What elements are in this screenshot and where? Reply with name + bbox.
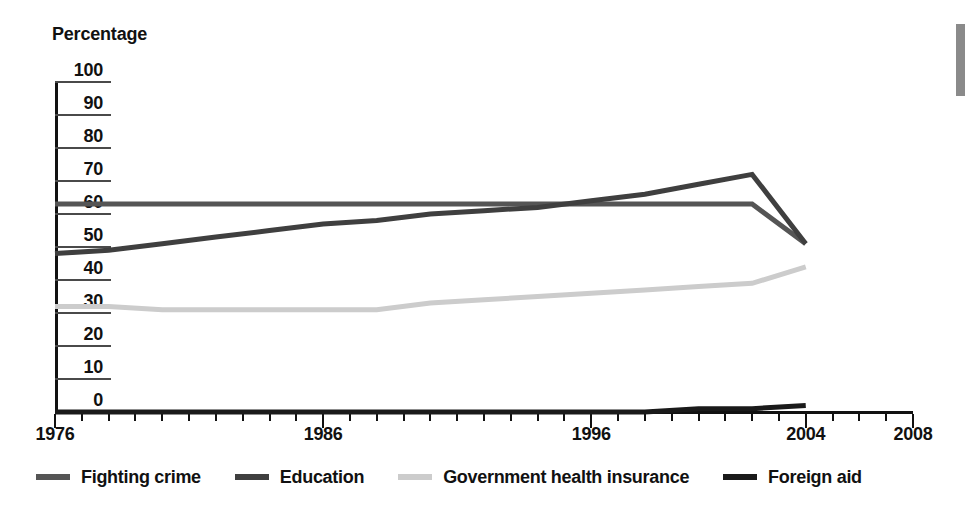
- series-lines-group: [0, 0, 977, 510]
- x-axis-minor-tick: [161, 414, 163, 421]
- y-axis-tick-label: 20: [51, 325, 103, 343]
- x-axis-minor-tick: [832, 414, 834, 421]
- x-axis-minor-tick: [188, 414, 190, 421]
- x-axis-tick-label: 1996: [572, 424, 611, 445]
- x-axis-minor-tick: [269, 414, 271, 421]
- series-line: [55, 204, 806, 244]
- y-axis-tick-label: 70: [51, 160, 103, 178]
- x-axis-minor-tick: [349, 414, 351, 421]
- legend-swatch-icon: [723, 474, 757, 480]
- legend-label: Government health insurance: [443, 467, 689, 488]
- x-axis-minor-tick: [242, 414, 244, 421]
- legend-item[interactable]: Fighting crime: [36, 467, 201, 488]
- y-axis-tick-label: 50: [51, 226, 103, 244]
- x-axis-minor-tick: [510, 414, 512, 421]
- y-axis-tick-label: 80: [51, 127, 103, 145]
- x-axis-tick-label: 2004: [786, 424, 825, 445]
- legend-item[interactable]: Foreign aid: [723, 467, 862, 488]
- legend-swatch-icon: [235, 474, 269, 480]
- chart-canvas: Percentage 1009080706050403020100 197619…: [0, 0, 977, 510]
- x-axis-minor-tick: [778, 414, 780, 421]
- y-axis-tick-label: 100: [51, 61, 103, 79]
- y-axis-tick: [55, 345, 111, 347]
- x-axis-minor-tick: [858, 414, 860, 421]
- y-axis-tick-label: 10: [51, 358, 103, 376]
- chart-legend: Fighting crimeEducationGovernment health…: [36, 462, 936, 492]
- series-line: [55, 174, 806, 253]
- page-edge-marker: [956, 24, 965, 96]
- x-axis-minor-tick: [376, 414, 378, 421]
- x-axis-tick-label: 1986: [304, 424, 343, 445]
- series-line: [55, 267, 806, 310]
- x-axis-minor-tick: [134, 414, 136, 421]
- y-axis-tick-label: 60: [51, 193, 103, 211]
- y-axis-tick: [55, 213, 111, 215]
- legend-swatch-icon: [398, 474, 432, 480]
- y-axis-tick: [55, 246, 111, 248]
- legend-label: Foreign aid: [768, 467, 862, 488]
- legend-swatch-icon: [36, 474, 70, 480]
- x-axis-minor-tick: [108, 414, 110, 421]
- x-axis-minor-tick: [537, 414, 539, 421]
- y-axis-tick-label: 90: [51, 94, 103, 112]
- y-axis-tick: [55, 279, 111, 281]
- x-axis-minor-tick: [724, 414, 726, 421]
- y-axis-tick-label: 40: [51, 259, 103, 277]
- y-axis-tick: [55, 378, 111, 380]
- x-axis-minor-tick: [644, 414, 646, 421]
- x-axis-minor-tick: [617, 414, 619, 421]
- x-axis-minor-tick: [81, 414, 83, 421]
- y-axis-tick: [55, 114, 111, 116]
- legend-label: Fighting crime: [81, 467, 201, 488]
- x-axis-minor-tick: [215, 414, 217, 421]
- x-axis-minor-tick: [751, 414, 753, 421]
- x-axis-minor-tick: [885, 414, 887, 421]
- x-axis-minor-tick: [456, 414, 458, 421]
- x-axis-minor-tick: [295, 414, 297, 421]
- y-axis-tick: [55, 180, 111, 182]
- x-axis-minor-tick: [483, 414, 485, 421]
- legend-item[interactable]: Government health insurance: [398, 467, 689, 488]
- y-axis-title: Percentage: [52, 24, 147, 45]
- y-axis-tick: [55, 312, 111, 314]
- x-axis-minor-tick: [403, 414, 405, 421]
- x-axis-minor-tick: [563, 414, 565, 421]
- x-axis-minor-tick: [671, 414, 673, 421]
- y-axis-tick: [55, 81, 111, 83]
- y-axis-tick-label: 30: [51, 292, 103, 310]
- y-axis-tick-label: 0: [51, 391, 103, 409]
- x-axis-tick-label: 2008: [894, 424, 933, 445]
- x-axis-minor-tick: [698, 414, 700, 421]
- x-axis-minor-tick: [429, 414, 431, 421]
- x-axis-tick-label: 1976: [36, 424, 75, 445]
- legend-label: Education: [280, 467, 364, 488]
- y-axis-tick: [55, 147, 111, 149]
- legend-item[interactable]: Education: [235, 467, 364, 488]
